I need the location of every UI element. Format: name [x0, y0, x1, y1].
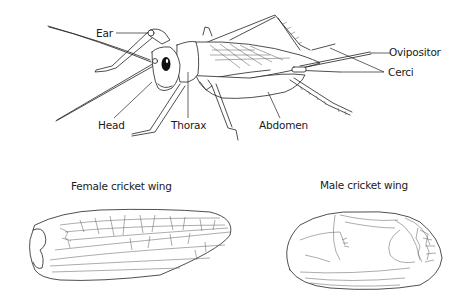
compound-eye — [162, 57, 171, 71]
leader-abdomen — [268, 92, 280, 118]
eye-highlight — [166, 59, 168, 63]
hind-leg-femur-inner — [230, 17, 275, 40]
label-ovipositor: Ovipositor — [389, 47, 441, 58]
pronotum-spike — [203, 27, 212, 36]
cercus-base — [292, 67, 306, 72]
female-wing-title: Female cricket wing — [71, 181, 172, 192]
female-wing-illustration — [30, 209, 231, 280]
cercus-upper — [312, 44, 335, 50]
hind-leg-spines — [283, 22, 302, 44]
male-wing-title: Male cricket wing — [320, 180, 408, 191]
label-head: Head — [98, 120, 125, 131]
leader-cerci-1 — [330, 48, 384, 72]
label-ear: Ear — [96, 28, 113, 39]
hind-leg-lower-spines — [300, 86, 346, 115]
hind-leg-tibia — [278, 18, 300, 50]
male-wing-illustration — [287, 212, 442, 290]
label-thorax: Thorax — [171, 120, 206, 131]
antenna-socket — [153, 59, 158, 64]
label-cerci: Cerci — [388, 67, 414, 78]
leader-head — [114, 82, 152, 118]
label-abdomen: Abdomen — [259, 120, 308, 131]
ear-spot — [148, 30, 154, 36]
cricket-diagram: Ear Head Thorax Abdomen Ovipositor Cerci… — [0, 0, 461, 303]
antenna-lower-2 — [56, 64, 157, 121]
